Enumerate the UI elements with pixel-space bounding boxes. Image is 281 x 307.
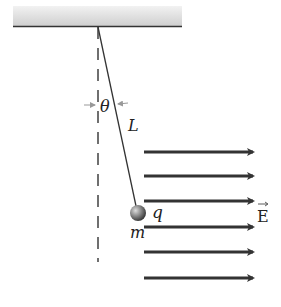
length-label: L [127, 116, 139, 135]
svg-text:E: E [257, 207, 269, 226]
angle-label: θ [100, 97, 110, 116]
field-label: E [257, 202, 269, 226]
mass-label: m [130, 223, 145, 242]
charge-label: q [152, 202, 163, 222]
pendulum-diagram: θ L q m E [0, 0, 281, 307]
ceiling [13, 6, 182, 27]
pendulum-bob [130, 205, 146, 221]
